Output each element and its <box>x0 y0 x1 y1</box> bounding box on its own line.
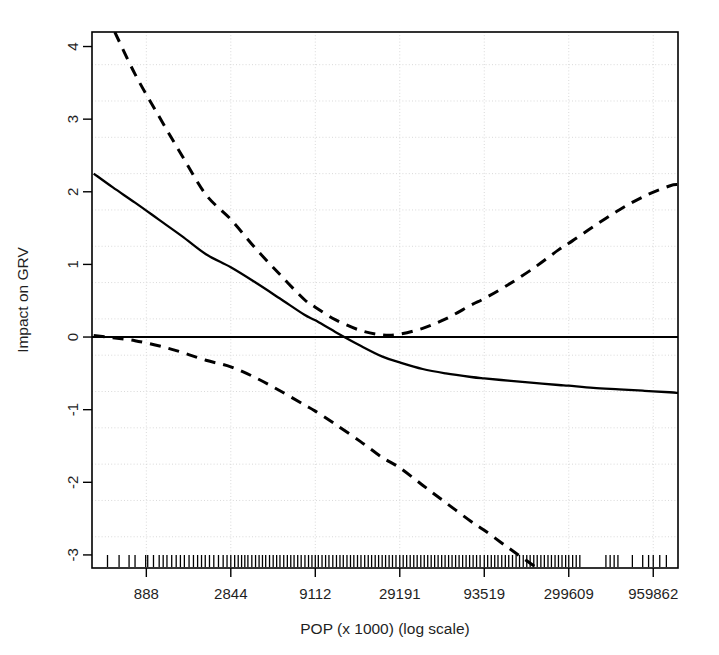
gam-partial-effect-plot: 888284491122919193519299609959862 -3-2-1… <box>0 0 719 655</box>
y-axis-tick-label: 2 <box>65 188 82 196</box>
x-axis-title: POP (x 1000) (log scale) <box>300 620 469 637</box>
x-axis-tick-label: 888 <box>134 585 159 602</box>
y-axis-tick-label: 4 <box>65 42 82 50</box>
y-axis-tick-label: 0 <box>65 333 82 341</box>
x-axis-tick-label: 2844 <box>214 585 247 602</box>
x-axis-tick-label: 299609 <box>544 585 594 602</box>
x-axis-tick-label: 29191 <box>379 585 421 602</box>
y-axis-title: Impact on GRV <box>14 247 31 353</box>
x-axis-tick-label: 959862 <box>628 585 678 602</box>
x-axis-tick-label: 93519 <box>463 585 505 602</box>
y-axis-tick-label: -1 <box>65 403 82 416</box>
y-axis-tick-label: 1 <box>65 260 82 268</box>
chart-figure: 888284491122919193519299609959862 -3-2-1… <box>0 0 719 655</box>
y-axis-tick-label: -2 <box>65 476 82 489</box>
y-axis-tick-label: -3 <box>65 548 82 561</box>
x-axis-tick-label: 9112 <box>299 585 331 602</box>
y-axis-tick-label: 3 <box>65 115 82 123</box>
